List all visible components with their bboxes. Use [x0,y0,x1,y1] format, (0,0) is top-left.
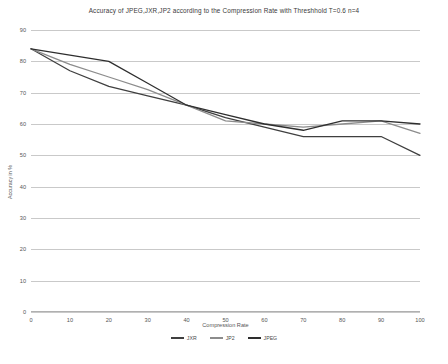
series-line-jxr [31,49,420,156]
legend-swatch-icon [210,337,223,338]
series-lines [31,30,420,312]
y-axis-tick-label: 40 [20,184,26,190]
y-axis-tick-label: 60 [20,121,26,127]
y-axis-tick-label: 50 [20,152,26,158]
y-axis-tick-label: 80 [20,58,26,64]
y-axis-tick-label: 20 [20,246,26,252]
plot-area: 9080706050403020100 01020304050607080901… [31,30,420,312]
legend-swatch-icon [248,337,261,338]
legend-swatch-icon [171,337,184,338]
chart-title: Accuracy of JPEG,JXR,JP2 according to th… [0,7,448,14]
legend-item-jpeg[interactable]: JPEG [248,335,278,341]
chart-container: Accuracy of JPEG,JXR,JP2 according to th… [0,0,448,364]
y-axis-tick-label: 0 [23,309,26,315]
legend-label: JXR [187,335,197,341]
y-axis-tick-label: 70 [20,90,26,96]
legend-item-jp2[interactable]: JP2 [210,335,235,341]
chart-legend: JXRJP2JPEG [0,335,448,341]
legend-label: JP2 [226,335,235,341]
legend-label: JPEG [264,335,278,341]
legend-item-jxr[interactable]: JXR [171,335,197,341]
y-axis-tick-label: 90 [20,27,26,33]
x-axis-title: Compression Rate [31,322,420,328]
y-axis-tick-label: 10 [20,278,26,284]
y-axis-title: Accuracy in % [7,165,13,199]
y-axis-tick-label: 30 [20,215,26,221]
gridline [31,312,420,313]
